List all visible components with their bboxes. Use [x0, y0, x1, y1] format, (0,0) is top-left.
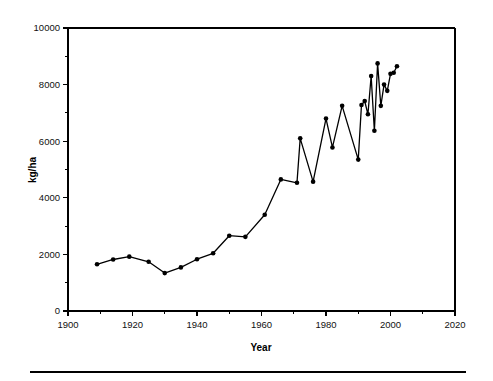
data-point — [127, 254, 132, 259]
data-point — [359, 103, 364, 108]
data-point — [298, 136, 303, 141]
data-point — [227, 233, 232, 238]
data-point — [295, 181, 300, 186]
data-point — [95, 262, 100, 267]
x-tick-label: 1920 — [122, 319, 143, 330]
data-point — [369, 74, 374, 79]
data-point — [372, 128, 377, 133]
y-tick-label: 6000 — [39, 136, 60, 147]
data-point — [243, 235, 248, 240]
data-point — [391, 70, 396, 75]
x-tick-label: 1940 — [186, 319, 207, 330]
y-tick-label: 10000 — [34, 22, 60, 33]
data-point — [324, 116, 329, 121]
x-tick-label: 1960 — [251, 319, 272, 330]
data-point — [385, 89, 390, 94]
chart-figure: 0200040006000800010000 19001920194019601… — [0, 0, 493, 381]
data-point — [195, 257, 200, 262]
y-tick-label: 4000 — [39, 192, 60, 203]
y-tick-label: 2000 — [39, 249, 60, 260]
y-axis-title: kg/ha — [27, 157, 38, 184]
data-point — [262, 212, 267, 217]
x-tick-label: 2000 — [380, 319, 401, 330]
data-series-yield — [95, 61, 400, 275]
data-point — [382, 82, 387, 87]
plot-frame — [68, 28, 455, 311]
data-point — [146, 259, 151, 264]
data-point — [366, 112, 371, 117]
data-point — [395, 64, 400, 69]
data-point — [162, 271, 167, 276]
data-point — [379, 104, 384, 109]
y-tick-label: 8000 — [39, 79, 60, 90]
data-point — [111, 257, 116, 262]
x-axis: 1900192019401960198020002020 — [57, 311, 465, 330]
data-point — [362, 99, 367, 104]
y-tick-label: 0 — [55, 305, 60, 316]
data-point — [356, 157, 361, 162]
line-chart: 0200040006000800010000 19001920194019601… — [0, 0, 493, 381]
data-point — [279, 177, 284, 182]
x-tick-label: 1900 — [57, 319, 78, 330]
series-line-yield — [97, 63, 397, 273]
y-axis: 0200040006000800010000 — [34, 22, 68, 316]
axis-left-top — [68, 28, 455, 311]
data-point — [311, 179, 316, 184]
data-point — [375, 61, 380, 66]
x-tick-label: 2020 — [444, 319, 465, 330]
data-point — [330, 145, 335, 150]
x-tick-label: 1980 — [315, 319, 336, 330]
data-point — [211, 251, 216, 256]
data-point — [179, 265, 184, 270]
data-point — [340, 104, 345, 109]
x-axis-title: Year — [250, 342, 271, 353]
series-markers-yield — [95, 61, 400, 275]
